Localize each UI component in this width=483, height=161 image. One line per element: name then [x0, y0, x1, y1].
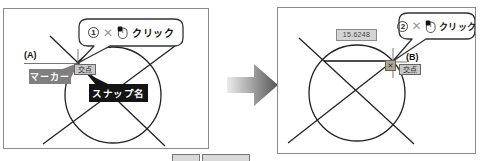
- snap-tooltip-intersection: 交点: [74, 64, 96, 75]
- snap-tooltip-intersection: 交点: [399, 64, 421, 75]
- marker-callout: マーカー: [29, 69, 71, 84]
- crosshair-cursor-icon: ✕: [103, 27, 113, 39]
- panel-before: 1 ✕ クリック (A) マーカー 交点 スナップ名: [3, 8, 209, 149]
- snap-name-callout: スナップ名: [89, 84, 148, 102]
- transition-arrow-icon: [227, 62, 280, 108]
- tutorial-figure: { "left": { "step_number": "1", "cursor_…: [0, 0, 483, 161]
- cropped-bottom-box-1: [172, 154, 200, 161]
- crosshair-cursor-icon: ✕: [411, 20, 421, 32]
- mouse-left-click-icon: [425, 20, 436, 33]
- step-number-badge: 1: [88, 27, 99, 38]
- point-a-label: (A): [24, 50, 37, 60]
- diagonal-line-1: [299, 38, 414, 144]
- click-label: クリック: [439, 20, 477, 33]
- step-callout-content: 1 ✕ クリック: [82, 20, 180, 45]
- point-b-label: (B): [406, 52, 419, 62]
- cropped-bottom-box-2: [202, 154, 250, 161]
- step-callout-content: 2 ✕ クリック: [401, 14, 473, 38]
- mouse-left-click-icon: [117, 26, 128, 39]
- click-label: クリック: [132, 25, 174, 40]
- step-number-badge: 2: [397, 21, 408, 32]
- panel-after: 2 ✕ クリック 15.6248 (B) ✕ 交点: [277, 7, 476, 154]
- dimension-readout: 15.6248: [336, 29, 377, 41]
- snap-marker-icon: ✕: [385, 60, 396, 71]
